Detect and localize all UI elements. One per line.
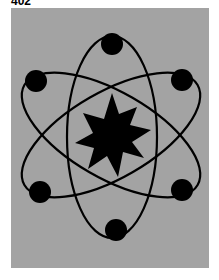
electron-icon xyxy=(105,219,127,241)
nucleus-star-icon xyxy=(75,93,151,177)
electron-icon xyxy=(171,179,193,201)
atom-illustration xyxy=(0,0,219,280)
electron-icon xyxy=(25,70,47,92)
electron-icon xyxy=(29,181,51,203)
electron-icon xyxy=(171,69,193,91)
electron-icon xyxy=(101,33,123,55)
